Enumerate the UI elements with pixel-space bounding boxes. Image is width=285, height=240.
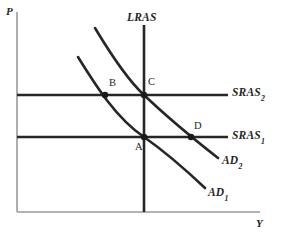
point-marker-c <box>141 92 147 98</box>
point-label-a: A <box>135 142 143 153</box>
ad1-curve <box>78 57 205 188</box>
point-label-d: D <box>194 121 202 132</box>
point-marker-d <box>188 134 194 140</box>
lras-label: LRAS <box>127 12 157 24</box>
sras1-label-subscript: 1 <box>261 137 265 146</box>
point-label-c: C <box>148 77 155 88</box>
ad1-label: AD1 <box>208 187 229 201</box>
ad-as-diagram: P Y LRAS SRAS2 SRAS1 AD2 AD1 A B C D <box>0 0 285 240</box>
point-marker-b <box>102 92 108 98</box>
sras1-label: SRAS1 <box>232 130 265 144</box>
ad2-label: AD2 <box>222 155 243 169</box>
sras2-label-subscript: 2 <box>261 94 265 103</box>
point-label-b: B <box>109 78 116 89</box>
x-axis-label: Y <box>256 218 263 229</box>
ad2-curve <box>95 28 218 158</box>
y-axis-label: P <box>6 6 13 17</box>
sras2-label: SRAS2 <box>232 87 265 101</box>
diagram-canvas <box>0 0 285 240</box>
point-marker-a <box>141 134 147 140</box>
ad1-label-subscript: 1 <box>224 194 228 203</box>
ad2-label-subscript: 2 <box>238 162 242 171</box>
